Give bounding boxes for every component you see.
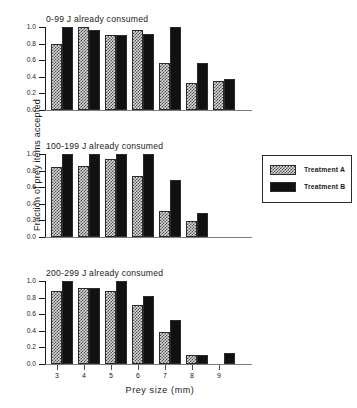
bar-treatment-b — [116, 35, 127, 110]
bar-treatment-a — [51, 167, 62, 237]
bar-treatment-b — [62, 27, 73, 110]
bar-treatment-a — [105, 35, 116, 110]
bar-treatment-a — [51, 291, 62, 364]
bar-group — [186, 154, 208, 237]
bars-layer — [46, 281, 235, 364]
y-tick-label: 0.8 — [14, 295, 36, 302]
y-tick — [39, 171, 45, 172]
x-axis — [45, 110, 252, 111]
x-tick-label: 5 — [102, 372, 120, 379]
bar-treatment-a — [78, 288, 89, 364]
bar-treatment-a — [132, 30, 143, 110]
x-tick-label: 6 — [129, 372, 147, 379]
y-tick-label: 0.2 — [14, 344, 36, 351]
bar-treatment-b — [170, 180, 181, 237]
x-tick-label: 8 — [183, 372, 201, 379]
legend-swatch-treatment-a — [270, 165, 296, 175]
bar-group — [159, 281, 181, 364]
y-tick-label: 0.6 — [14, 311, 36, 318]
bar-treatment-a — [105, 159, 116, 237]
y-tick — [39, 347, 45, 348]
bar-treatment-b — [116, 154, 127, 237]
bar-treatment-a — [51, 44, 62, 110]
x-tick-label: 9 — [210, 372, 228, 379]
x-tick — [219, 365, 220, 370]
y-tick — [39, 93, 45, 94]
bar-treatment-b — [197, 355, 208, 364]
y-tick — [39, 298, 45, 299]
bar-group — [51, 154, 73, 237]
bar-treatment-b — [116, 281, 127, 364]
y-tick — [39, 44, 45, 45]
y-tick-label: 1.0 — [14, 278, 36, 285]
bar-treatment-a — [213, 81, 224, 110]
bar-treatment-a — [132, 305, 143, 364]
bar-treatment-a — [105, 291, 116, 364]
bar-treatment-b — [143, 154, 154, 237]
y-tick — [39, 281, 45, 282]
bar-treatment-a — [159, 63, 170, 110]
y-tick-label: 1.0 — [14, 24, 36, 31]
y-tick — [39, 60, 45, 61]
bar-group — [132, 27, 154, 110]
x-tick — [84, 365, 85, 370]
bar-treatment-a — [159, 332, 170, 364]
bar-group — [186, 281, 208, 364]
bar-treatment-a — [159, 211, 170, 237]
bar-treatment-b — [224, 353, 235, 364]
y-tick-label: 0.0 — [14, 234, 36, 241]
bar-treatment-b — [197, 213, 208, 237]
x-tick — [57, 365, 58, 370]
y-tick-label: 0.4 — [14, 74, 36, 81]
x-tick — [111, 365, 112, 370]
bar-treatment-b — [143, 34, 154, 110]
bar-treatment-a — [78, 27, 89, 110]
bar-treatment-a — [186, 355, 197, 364]
y-tick — [39, 77, 45, 78]
y-tick-label: 0.2 — [14, 217, 36, 224]
y-tick-label: 0.4 — [14, 328, 36, 335]
bar-group — [78, 281, 100, 364]
y-tick-label: 0.4 — [14, 201, 36, 208]
figure: Fraction of prey items accepted 0-99 J a… — [0, 0, 357, 408]
y-tick-label: 0.6 — [14, 57, 36, 64]
bar-treatment-a — [78, 166, 89, 237]
bar-treatment-b — [170, 320, 181, 364]
x-tick-label: 3 — [48, 372, 66, 379]
legend-label-treatment-b: Treatment B — [304, 183, 345, 190]
y-tick — [39, 154, 45, 155]
bars-layer — [46, 154, 235, 237]
bar-treatment-b — [89, 288, 100, 364]
bar-treatment-b — [143, 296, 154, 364]
bar-group — [213, 281, 235, 364]
y-tick — [39, 314, 45, 315]
y-tick — [39, 220, 45, 221]
y-tick — [39, 331, 45, 332]
y-tick-label: 0.6 — [14, 184, 36, 191]
y-tick-label: 0.8 — [14, 168, 36, 175]
y-tick — [39, 204, 45, 205]
legend: Treatment A Treatment B — [262, 155, 352, 203]
y-tick-label: 1.0 — [14, 151, 36, 158]
bar-group — [105, 281, 127, 364]
bar-group — [186, 27, 208, 110]
x-tick — [165, 365, 166, 370]
bar-treatment-a — [132, 176, 143, 237]
bar-treatment-b — [224, 79, 235, 110]
panel-title: 200-299 J already consumed — [46, 268, 163, 278]
x-tick-label: 4 — [75, 372, 93, 379]
y-tick — [39, 187, 45, 188]
x-tick — [192, 365, 193, 370]
panel-title: 0-99 J already consumed — [46, 14, 148, 24]
bar-group — [51, 27, 73, 110]
y-tick-label: 0.0 — [14, 107, 36, 114]
bar-treatment-b — [62, 154, 73, 237]
y-tick-label: 0.8 — [14, 41, 36, 48]
bar-group — [78, 154, 100, 237]
bar-treatment-b — [197, 63, 208, 110]
bar-group — [51, 281, 73, 364]
bar-treatment-b — [62, 281, 73, 364]
panel-title: 100-199 J already consumed — [46, 141, 163, 151]
bar-treatment-a — [186, 221, 197, 237]
x-axis — [45, 364, 252, 365]
